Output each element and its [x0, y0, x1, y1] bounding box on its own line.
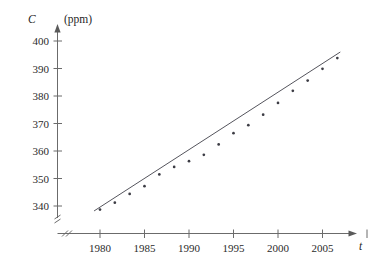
y-tick-label-390: 390	[33, 63, 50, 75]
y-tick-label-350: 350	[33, 173, 50, 185]
data-point	[99, 208, 102, 211]
chart-canvas: 400 390 380 370 360 350 340 1980 1985 19…	[0, 0, 370, 270]
data-point	[232, 132, 235, 135]
data-point	[321, 67, 324, 70]
y-tick-label-380: 380	[33, 90, 50, 102]
x-tick-label-2000: 2000	[267, 242, 290, 254]
data-point	[306, 79, 309, 82]
data-point	[336, 57, 339, 60]
x-tick-label-2005: 2005	[312, 242, 335, 254]
data-point	[173, 166, 176, 169]
y-axis-break-mark-icon	[55, 219, 61, 223]
data-point	[188, 160, 191, 163]
x-axis-title: t	[359, 240, 363, 252]
data-point	[143, 185, 146, 188]
data-point	[202, 154, 205, 157]
data-point	[217, 143, 220, 146]
y-tick-label-370: 370	[33, 118, 50, 130]
x-tick-label-1985: 1985	[134, 242, 157, 254]
data-points-group	[99, 57, 339, 211]
y-tick-label-340: 340	[33, 200, 50, 212]
co2-concentration-chart: 400 390 380 370 360 350 340 1980 1985 19…	[0, 0, 370, 270]
data-point	[113, 201, 116, 204]
data-point	[277, 102, 280, 105]
regression-line	[94, 52, 340, 211]
y-tick-label-360: 360	[33, 145, 50, 157]
data-point	[262, 113, 265, 116]
data-point	[128, 193, 131, 196]
y-axis-title: C	[28, 13, 36, 25]
data-point	[158, 173, 161, 176]
y-axis-unit-label: (ppm)	[64, 13, 92, 26]
x-axis-arrow-icon	[349, 230, 358, 236]
data-point	[291, 89, 294, 92]
y-axis-arrow-icon	[54, 24, 60, 33]
x-tick-label-1980: 1980	[89, 242, 112, 254]
data-point	[247, 124, 250, 127]
y-tick-label-400: 400	[33, 35, 50, 47]
x-tick-label-1990: 1990	[178, 242, 201, 254]
x-tick-label-1995: 1995	[223, 242, 246, 254]
